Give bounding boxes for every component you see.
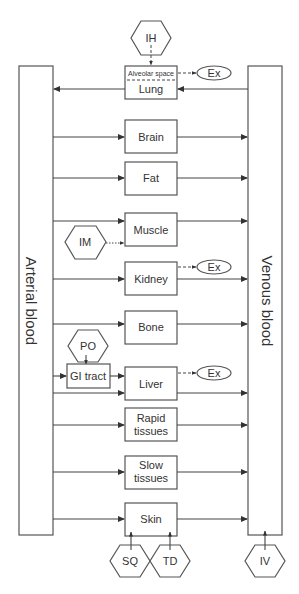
venous-blood-compartment: Venous blood	[248, 66, 282, 535]
route-td: TD	[150, 532, 190, 577]
lung-compartment: Alveolar space Lung	[125, 66, 177, 99]
excretion-label: Ex	[208, 367, 221, 379]
route-im-label: IM	[79, 236, 91, 248]
lung-excretion: Ex	[197, 66, 231, 80]
venous-blood-label: Venous blood	[259, 256, 276, 347]
organ-label: Skin	[140, 513, 161, 525]
organ-rapid-tissues: Rapid tissues	[53, 408, 247, 441]
lung-label: Lung	[139, 83, 163, 95]
organ-label: Bone	[138, 321, 164, 333]
alveolar-space-label: Alveolar space	[128, 70, 174, 78]
organ-slow-tissues: Slow tissues	[53, 456, 247, 489]
route-po: PO	[68, 330, 108, 364]
route-sq: SQ	[110, 532, 150, 577]
organ-label: Fat	[143, 172, 159, 184]
gi-tract-label: GI tract	[70, 370, 106, 382]
route-po-label: PO	[80, 340, 96, 352]
organ-label: Rapid	[137, 412, 166, 424]
excretion-label: Ex	[208, 67, 221, 79]
organ-label: Muscle	[134, 224, 169, 236]
route-iv: IV	[245, 531, 285, 577]
organ-label: tissues	[134, 425, 169, 437]
organ-label: Liver	[139, 378, 163, 390]
organ-label: tissues	[134, 472, 169, 484]
route-ih: IH	[131, 21, 171, 65]
organ-label: Brain	[138, 131, 164, 143]
arterial-blood-compartment: Arterial blood	[19, 66, 53, 535]
organ-label: Slow	[139, 459, 163, 471]
excretion-label: Ex	[208, 261, 221, 273]
route-iv-label: IV	[260, 555, 271, 567]
organ-skin: Skin	[53, 503, 247, 536]
route-im: IM	[65, 226, 124, 259]
organ-kidney: Kidney Ex	[53, 260, 247, 295]
route-td-label: TD	[163, 555, 178, 567]
gi-tract-compartment: GI tract	[53, 364, 124, 388]
pbpk-diagram: Arterial blood Venous blood Alveolar spa…	[0, 0, 299, 594]
route-ih-label: IH	[146, 32, 157, 44]
route-sq-label: SQ	[122, 555, 138, 567]
organ-label: Kidney	[134, 273, 168, 285]
organ-fat: Fat	[53, 162, 247, 195]
arterial-blood-label: Arterial blood	[23, 257, 40, 345]
organ-brain: Brain	[53, 120, 247, 153]
